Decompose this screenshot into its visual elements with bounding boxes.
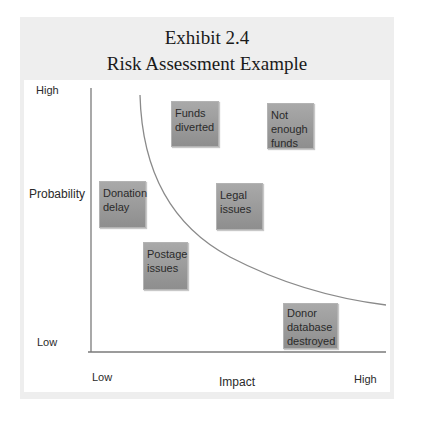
y-axis-low-label: Low: [37, 336, 57, 348]
y-axis-title: Probability: [29, 187, 85, 201]
risk-box-not-enough-funds: Not enough funds: [267, 103, 314, 149]
risk-box-postage-issues: Postage issues: [143, 242, 188, 290]
risk-box-funds-diverted: Funds diverted: [171, 101, 219, 147]
y-axis-high-label: High: [36, 84, 59, 96]
risk-box-legal-issues: Legal issues: [216, 183, 263, 230]
x-axis-title: Impact: [219, 375, 255, 389]
risk-box-donation-delay: Donation delay: [99, 181, 146, 228]
x-axis-low-label: Low: [92, 371, 112, 383]
axes-and-threshold-curve: [0, 0, 421, 421]
x-axis-high-label: High: [354, 373, 377, 385]
risk-box-donor-database-destroyed: Donor database destroyed: [283, 303, 338, 349]
